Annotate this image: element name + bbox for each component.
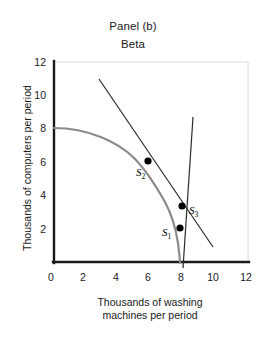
data-label-s3: S3	[189, 204, 198, 219]
price-line-flat	[99, 79, 213, 247]
data-label-s2-sub: 2	[142, 172, 146, 181]
data-point-s3[interactable]	[178, 202, 185, 209]
data-label-s1: S1	[162, 226, 171, 241]
data-label-s3-sub: 3	[195, 210, 199, 219]
ppf-curve	[54, 128, 180, 263]
x-axis-title-line1: Thousands of washing	[40, 296, 260, 309]
price-line-steep	[183, 117, 193, 268]
x-axis-title: Thousands of washing machines per period	[40, 296, 260, 322]
data-point-s2[interactable]	[144, 157, 151, 164]
data-label-s2: S2	[136, 166, 145, 181]
data-point-s1[interactable]	[176, 224, 183, 231]
data-label-s1-sub: 1	[168, 232, 172, 241]
plot-area	[0, 0, 266, 338]
figure-panel-b: Panel (b) Beta Thousands of computers pe…	[0, 0, 266, 338]
x-axis-title-line2: machines per period	[40, 309, 260, 322]
